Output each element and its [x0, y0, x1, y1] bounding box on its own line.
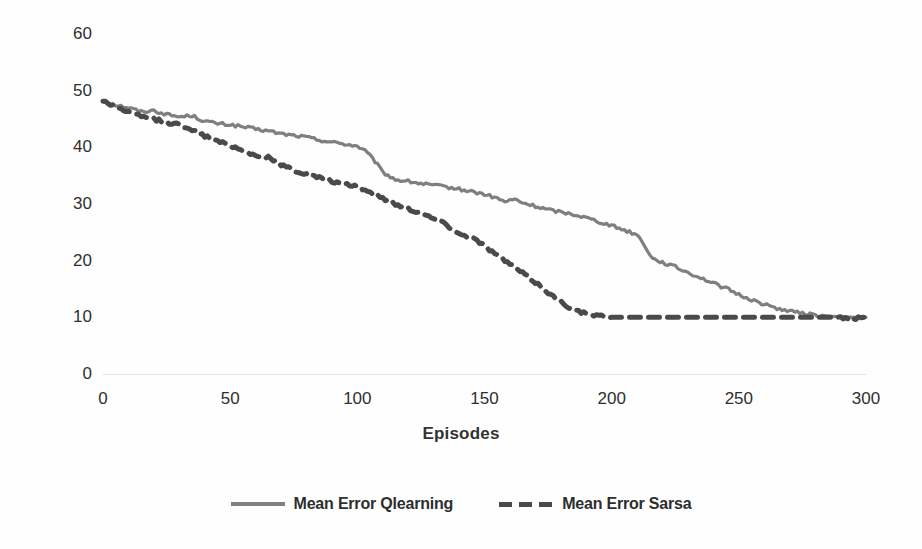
- legend-item-label: Mean Error Sarsa: [562, 495, 691, 513]
- x-axis-tick-labels: 050100150200250300: [0, 389, 922, 413]
- x-tick-label: 0: [98, 389, 107, 409]
- x-tick-label: 250: [725, 389, 753, 409]
- x-axis-title: Episodes: [0, 424, 922, 444]
- legend-item[interactable]: Mean Error Sarsa: [499, 495, 691, 513]
- legend-item[interactable]: Mean Error Qlearning: [231, 495, 454, 513]
- x-tick-label: 100: [343, 389, 371, 409]
- plot-area: [0, 0, 922, 549]
- legend-solid-line-icon: [231, 502, 285, 506]
- chart-container: Mean Error per episode 0102030405060 050…: [0, 0, 922, 549]
- legend-item-label: Mean Error Qlearning: [294, 495, 454, 513]
- x-tick-label: 200: [597, 389, 625, 409]
- x-tick-label: 50: [221, 389, 240, 409]
- chart-legend: Mean Error QlearningMean Error Sarsa: [0, 495, 922, 513]
- series-line-qlearning: [103, 101, 866, 317]
- x-tick-label: 300: [852, 389, 880, 409]
- x-tick-label: 150: [470, 389, 498, 409]
- series-line-sarsa: [103, 101, 866, 319]
- legend-dashed-line-icon: [499, 502, 553, 507]
